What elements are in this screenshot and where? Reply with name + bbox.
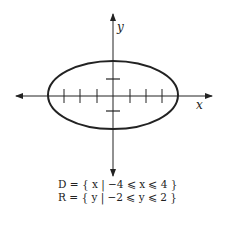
x-axis-label: x: [196, 98, 203, 112]
y-axis-label: y: [117, 20, 124, 34]
domain-statement: D = { x | −4 ⩽ x ⩽ 4 }: [58, 178, 178, 190]
range-statement: R = { y | −2 ⩽ y ⩽ 2 }: [58, 191, 177, 203]
